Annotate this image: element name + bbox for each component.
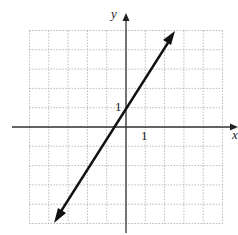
line-arrow-bottom-icon bbox=[54, 208, 66, 223]
graph: y x 1 1 bbox=[0, 0, 238, 235]
y-axis-arrow-icon bbox=[123, 13, 130, 21]
x-tick-label: 1 bbox=[141, 128, 148, 144]
y-axis-label: y bbox=[111, 6, 117, 22]
y-tick-label: 1 bbox=[115, 99, 122, 115]
coordinate-plane bbox=[0, 0, 238, 235]
x-axis-label: x bbox=[232, 127, 238, 143]
